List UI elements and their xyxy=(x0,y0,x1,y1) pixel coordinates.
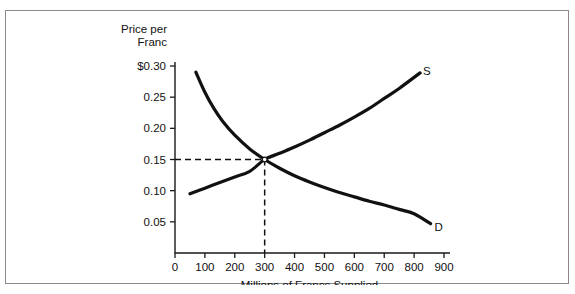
supply-demand-chart: 0.050.100.150.200.25$0.30010020030040050… xyxy=(6,11,570,285)
y-tick-label-0.10: 0.10 xyxy=(144,185,166,197)
y-tick-label-$0.30: $0.30 xyxy=(137,60,166,72)
y-tick-label-0.15: 0.15 xyxy=(144,154,166,166)
x-tick-label-300: 300 xyxy=(255,261,274,273)
x-tick-label-0: 0 xyxy=(172,261,178,273)
curve-S xyxy=(190,73,420,194)
x-tick-label-400: 400 xyxy=(285,261,304,273)
x-tick-label-100: 100 xyxy=(195,261,214,273)
figure-frame: 0.050.100.150.200.25$0.30010020030040050… xyxy=(5,10,569,284)
x-tick-label-600: 600 xyxy=(345,261,364,273)
y-tick-label-0.25: 0.25 xyxy=(144,91,166,103)
x-tick-label-500: 500 xyxy=(315,261,334,273)
equilibrium-point xyxy=(262,157,267,162)
x-tick-label-700: 700 xyxy=(375,261,394,273)
curve-label-D: D xyxy=(434,221,442,233)
y-axis-title-line1: Price per xyxy=(121,23,167,35)
y-axis-title-line2: Franc xyxy=(138,36,168,48)
x-tick-label-800: 800 xyxy=(405,261,424,273)
curve-D xyxy=(196,72,431,223)
x-tick-label-900: 900 xyxy=(434,261,453,273)
axis-lines xyxy=(175,62,450,253)
y-tick-label-0.20: 0.20 xyxy=(144,122,166,134)
y-tick-label-0.05: 0.05 xyxy=(144,216,166,228)
x-axis-title: Millions of Francs Supplied xyxy=(241,279,378,285)
curve-label-S: S xyxy=(423,65,431,77)
x-tick-label-200: 200 xyxy=(225,261,244,273)
